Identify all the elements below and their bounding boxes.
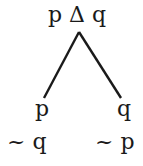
- right-branch-formula-2: ~ p: [95, 131, 135, 153]
- left-branch-formula-2: ~ q: [7, 131, 47, 153]
- right-branch-formula-1: q: [117, 98, 131, 120]
- left-branch-line: [44, 32, 79, 98]
- left-branch-formula-1: p: [35, 98, 49, 120]
- right-branch-line: [79, 32, 121, 98]
- truth-tree-diagram: p Δ q p ~ q q ~ p: [0, 0, 143, 166]
